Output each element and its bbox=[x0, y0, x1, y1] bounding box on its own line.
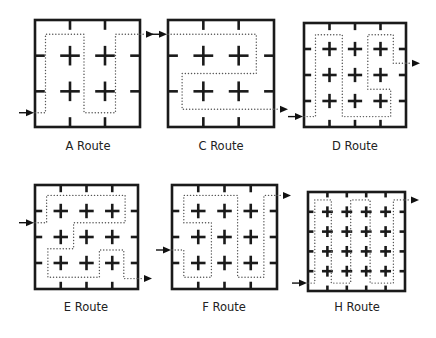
panel-a-route bbox=[19, 20, 154, 127]
panel-h-route bbox=[292, 192, 419, 291]
panel-d-route bbox=[288, 23, 420, 127]
exit-arrow-icon bbox=[144, 275, 152, 282]
panel-c-route bbox=[152, 20, 288, 127]
panel-f-route bbox=[156, 185, 291, 289]
panel-e-route bbox=[19, 185, 152, 289]
label-e-route: E Route bbox=[64, 300, 108, 314]
label-c-route: C Route bbox=[198, 139, 243, 153]
route-path bbox=[168, 34, 274, 109]
grid-outer-border bbox=[168, 20, 274, 127]
label-a-route: A Route bbox=[66, 139, 111, 153]
exit-arrow-icon bbox=[412, 60, 420, 67]
entry-arrow-icon bbox=[26, 219, 34, 226]
label-f-route: F Route bbox=[202, 300, 246, 314]
exit-arrow-icon bbox=[283, 192, 291, 199]
entry-arrow-icon bbox=[26, 109, 34, 116]
route-path bbox=[35, 34, 140, 112]
label-h-route: H Route bbox=[334, 300, 380, 314]
exit-arrow-icon bbox=[411, 196, 419, 203]
grid-outer-border bbox=[308, 192, 405, 291]
entry-arrow-icon bbox=[299, 280, 307, 287]
grid-outer-border bbox=[35, 20, 140, 127]
label-d-route: D Route bbox=[332, 139, 378, 153]
entry-arrow-icon bbox=[163, 247, 171, 254]
route-diagrams-figure: A Route C Route D Route E Route F Route … bbox=[0, 0, 436, 338]
exit-arrow-icon bbox=[280, 106, 288, 113]
entry-arrow-icon bbox=[295, 113, 303, 120]
entry-arrow-icon bbox=[159, 31, 167, 38]
